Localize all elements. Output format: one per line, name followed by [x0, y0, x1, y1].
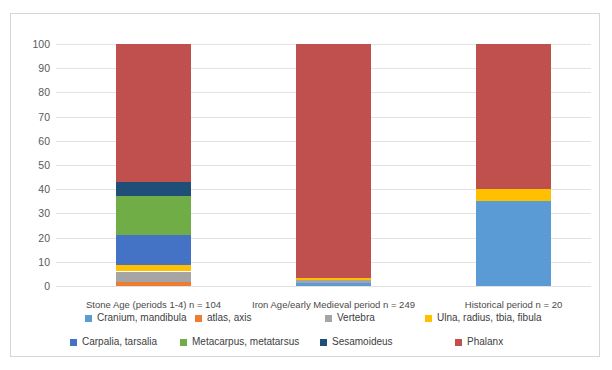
bar-0: [116, 44, 191, 286]
bar-segment: [476, 44, 551, 189]
y-axis-tick-label: 100: [10, 38, 50, 50]
y-axis-tick-label: 20: [10, 232, 50, 244]
y-axis-tick-label: 10: [10, 256, 50, 268]
plot-area: 0102030405060708090100 Stone Age (period…: [56, 31, 591, 291]
legend-item[interactable]: Carpalia, tarsalia: [70, 337, 157, 347]
bar-segment: [476, 201, 551, 286]
legend-item[interactable]: Phalanx: [455, 337, 503, 347]
bar-segment: [116, 182, 191, 197]
legend-item[interactable]: Ulna, radius, tbia, fibula: [425, 313, 542, 323]
bar-segment: [296, 278, 371, 280]
bar-segment: [116, 272, 191, 283]
bar-segment: [116, 265, 191, 271]
legend-item[interactable]: Metacarpus, metatarsus: [180, 337, 299, 347]
y-axis-tick-label: 80: [10, 86, 50, 98]
legend-row: Carpalia, tarsaliaMetacarpus, metatarsus…: [25, 330, 585, 354]
legend-item[interactable]: atlas, axis: [195, 313, 251, 323]
legend-swatch-icon: [320, 339, 327, 346]
chart-legend: Cranium, mandibulaatlas, axisVertebraUln…: [11, 306, 599, 354]
y-axis-tick-label: 90: [10, 62, 50, 74]
y-axis-tick-label: 60: [10, 135, 50, 147]
chart-container: 0102030405060708090100 Stone Age (period…: [10, 13, 600, 357]
legend-swatch-icon: [85, 315, 92, 322]
y-axis-tick-label: 0: [10, 280, 50, 292]
bar-segment: [116, 196, 191, 235]
legend-item[interactable]: Sesamoideus: [320, 337, 393, 347]
legend-label: Cranium, mandibula: [97, 313, 187, 323]
bar-segment: [116, 44, 191, 182]
bar-1: [296, 44, 371, 286]
y-axis-tick-label: 70: [10, 111, 50, 123]
bar-segment: [116, 235, 191, 265]
legend-label: Carpalia, tarsalia: [82, 337, 157, 347]
legend-label: Vertebra: [337, 313, 375, 323]
legend-label: Sesamoideus: [332, 337, 393, 347]
legend-swatch-icon: [70, 339, 77, 346]
bar-segment: [296, 280, 371, 283]
legend-label: Ulna, radius, tbia, fibula: [437, 313, 542, 323]
bar-segment: [476, 189, 551, 201]
legend-swatch-icon: [455, 339, 462, 346]
bar-segment: [296, 44, 371, 278]
legend-label: atlas, axis: [207, 313, 251, 323]
legend-swatch-icon: [425, 315, 432, 322]
gridline: [56, 286, 591, 287]
legend-item[interactable]: Vertebra: [325, 313, 375, 323]
legend-swatch-icon: [325, 315, 332, 322]
legend-label: Metacarpus, metatarsus: [192, 337, 299, 347]
y-axis-tick-label: 40: [10, 183, 50, 195]
bar-segment: [296, 283, 371, 286]
legend-label: Phalanx: [467, 337, 503, 347]
legend-swatch-icon: [180, 339, 187, 346]
y-axis-tick-label: 50: [10, 159, 50, 171]
y-axis-tick-label: 30: [10, 207, 50, 219]
legend-swatch-icon: [195, 315, 202, 322]
bar-segment: [116, 282, 191, 286]
legend-row: Cranium, mandibulaatlas, axisVertebraUln…: [25, 306, 585, 330]
bar-2: [476, 44, 551, 286]
legend-item[interactable]: Cranium, mandibula: [85, 313, 187, 323]
